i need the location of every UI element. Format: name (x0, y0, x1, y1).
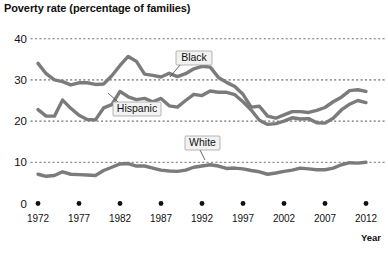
x-tick-dot-1982 (118, 201, 123, 206)
x-tick-dot-1972 (36, 201, 41, 206)
series-line-black (38, 56, 366, 118)
y-tick-label-40: 40 (14, 33, 27, 45)
x-tick-label-2002: 2002 (273, 213, 296, 224)
callout-label-hispanic: Hispanic (117, 102, 157, 114)
x-tick-label-1997: 1997 (232, 213, 255, 224)
callout-leader-white (200, 150, 205, 160)
series-line-white (38, 162, 366, 176)
x-tick-label-2012: 2012 (355, 213, 378, 224)
chart-plot-area: 403020100 197219771982198719921997200220… (0, 0, 388, 258)
x-tick-label-1992: 1992 (191, 213, 214, 224)
x-axis-title: Year (361, 232, 381, 243)
series-line-hispanic (38, 91, 366, 124)
x-tick-dot-1987 (159, 201, 164, 206)
y-tick-label-30: 30 (14, 74, 27, 86)
x-tick-dot-2012 (364, 201, 369, 206)
series-lines-group (38, 56, 366, 176)
x-tick-label-1987: 1987 (150, 213, 173, 224)
x-tick-dot-1992 (200, 201, 205, 206)
x-tick-dot-1997 (241, 201, 246, 206)
x-tick-dot-2007 (323, 201, 328, 206)
x-axis-labels-group: 197219771982198719921997200220072012 (27, 213, 378, 224)
x-tick-dot-2002 (282, 201, 287, 206)
y-axis-labels-group: 403020100 (14, 33, 27, 210)
callout-label-white: White (189, 136, 216, 148)
callout-label-black: Black (181, 51, 207, 63)
x-tick-label-1972: 1972 (27, 213, 50, 224)
x-axis-ticks-group (36, 201, 369, 206)
y-tick-label-10: 10 (14, 156, 27, 168)
y-tick-label-20: 20 (14, 115, 27, 127)
poverty-rate-chart: Poverty rate (percentage of families) 40… (0, 0, 388, 258)
x-tick-label-2007: 2007 (314, 213, 337, 224)
x-tick-dot-1977 (77, 201, 82, 206)
y-tick-label-0: 0 (21, 198, 27, 210)
x-tick-label-1982: 1982 (109, 213, 132, 224)
x-tick-label-1977: 1977 (68, 213, 91, 224)
